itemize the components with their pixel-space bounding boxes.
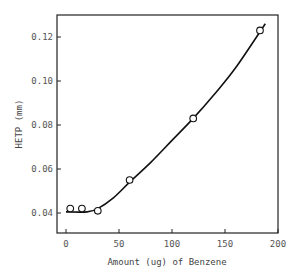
y-tick-label: 0.08 [31, 120, 53, 130]
x-tick-label: 50 [114, 239, 125, 249]
data-point-marker [95, 208, 102, 215]
x-axis-label: Amount (ug) of Benzene [107, 257, 226, 267]
data-point-marker [257, 27, 264, 34]
data-point-marker [67, 205, 74, 212]
data-points [67, 27, 263, 214]
plot-frame [57, 15, 278, 233]
x-axis-ticks: 050100150200 [63, 229, 286, 249]
y-tick-label: 0.06 [31, 164, 53, 174]
y-tick-label: 0.04 [31, 208, 53, 218]
data-point-marker [79, 205, 86, 212]
fitted-curve [66, 24, 265, 212]
hetp-vs-benzene-chart: 0.040.060.080.100.12 050100150200 HETP (… [0, 0, 295, 278]
data-point-marker [126, 177, 133, 184]
x-tick-label: 100 [164, 239, 180, 249]
y-tick-label: 0.12 [31, 32, 53, 42]
x-tick-label: 200 [270, 239, 286, 249]
data-point-marker [190, 115, 197, 122]
y-axis-label: HETP (mm) [14, 100, 24, 149]
y-tick-label: 0.10 [31, 76, 53, 86]
x-tick-label: 0 [63, 239, 68, 249]
x-tick-label: 150 [217, 239, 233, 249]
